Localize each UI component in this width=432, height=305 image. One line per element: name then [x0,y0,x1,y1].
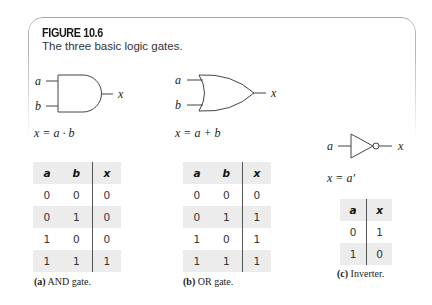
header-cell: b [211,162,243,184]
table-header-row: a b x [183,162,271,184]
or-input-a: a [175,73,181,87]
and-equation: x = a · b [34,126,74,141]
table-row: 0 1 [340,221,392,243]
table-cell: 0 [33,206,61,228]
table-row: 0 1 1 [183,206,271,228]
and-input-a: a [35,74,41,88]
table-row: 1 0 [340,243,392,265]
table-cell: 1 [211,206,243,228]
table-cell: 1 [242,206,271,228]
table-row: 0 0 0 [183,184,271,206]
header-cell: x [92,162,121,184]
table-cell: 1 [367,221,392,243]
table-row: 0 0 0 [33,184,121,206]
table-cell: 0 [242,184,271,206]
table-cell: 1 [61,250,93,272]
table-cell: 1 [211,250,243,272]
table-cell: 1 [61,206,93,228]
or-output-x: x [270,86,277,100]
inverter-caption: (c) Inverter. [337,268,384,279]
table-cell: 1 [242,250,271,272]
table-cell: 0 [92,184,121,206]
table-row: 0 1 0 [33,206,121,228]
table-cell: 1 [183,250,211,272]
table-cell: 0 [92,206,121,228]
inverter-equation: x = a′ [327,171,355,186]
or-truth-table: a b x 0 0 0 0 1 1 1 0 1 1 1 1 [183,162,271,272]
table-cell: 1 [33,228,61,250]
table-header-row: a x [340,199,392,221]
table-cell: 1 [33,250,61,272]
caption-text: AND gate. [46,276,91,287]
and-input-b: b [35,99,41,113]
table-row: 1 1 1 [33,250,121,272]
table-cell: 1 [183,228,211,250]
or-equation: x = a + b [175,126,221,141]
caption-text: OR gate. [195,276,233,287]
table-cell: 0 [340,221,367,243]
caption-tag: (c) [337,268,348,279]
table-cell: 0 [211,184,243,206]
and-output-x: x [117,87,124,101]
table-cell: 0 [183,184,211,206]
header-cell: a [33,162,61,184]
table-cell: 0 [183,206,211,228]
header-cell: b [61,162,93,184]
table-cell: 0 [33,184,61,206]
caption-tag: (b) [183,276,195,287]
header-cell: x [367,199,392,221]
table-cell: 1 [242,228,271,250]
inverter-output-x: x [397,139,404,153]
or-caption: (b) OR gate. [183,276,233,287]
and-caption: (a) AND gate. [34,276,91,287]
table-row: 1 0 1 [183,228,271,250]
table-cell: 1 [340,243,367,265]
table-cell: 0 [211,228,243,250]
and-truth-table: a b x 0 0 0 0 1 0 1 0 0 1 1 1 [33,162,121,272]
inverter-icon [338,134,392,158]
table-cell: 0 [61,228,93,250]
table-cell: 0 [61,184,93,206]
caption-tag: (a) [34,276,46,287]
inverter-input-a: a [327,139,333,153]
caption-text: Inverter. [348,268,384,279]
table-cell: 0 [92,228,121,250]
table-row: 1 0 0 [33,228,121,250]
inverter-truth-table: a x 0 1 1 0 [340,199,392,265]
header-cell: x [242,162,271,184]
or-input-b: b [175,98,181,112]
table-cell: 1 [92,250,121,272]
and-gate-icon [46,75,113,112]
table-cell: 0 [367,243,392,265]
table-row: 1 1 1 [183,250,271,272]
table-header-row: a b x [33,162,121,184]
header-cell: a [340,199,367,221]
header-cell: a [183,162,211,184]
or-gate-icon [187,75,266,111]
